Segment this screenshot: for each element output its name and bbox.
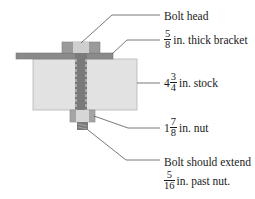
leader-nut (94, 116, 160, 128)
extension-fraction: 5 16 (164, 170, 175, 191)
nut-fraction: 7 8 (170, 117, 177, 138)
bolt-head-face (73, 42, 89, 53)
label-stock: 4 3 4 in. stock (164, 72, 218, 93)
leader-extension (88, 130, 160, 160)
label-extension-line1: Bolt should extend (164, 155, 251, 168)
label-bolt-head: Bolt head (164, 9, 208, 22)
label-bracket: 5 8 in. thick bracket (164, 29, 248, 50)
label-nut: 1 7 8 in. nut (164, 117, 208, 138)
stock-fraction: 3 4 (170, 72, 177, 93)
nut-face (76, 110, 89, 122)
label-bracket-text: in. thick bracket (173, 34, 247, 46)
label-bolt-head-text: Bolt head (164, 10, 208, 22)
label-nut-text: in. nut (179, 122, 208, 134)
leader-bolt-head (81, 15, 160, 43)
leader-bracket (112, 40, 160, 54)
label-stock-text: in. stock (179, 77, 218, 89)
bracket-plate (16, 53, 113, 59)
bolt-shaft (75, 53, 87, 110)
label-extension-line2: 5 16 in. past nut. (164, 170, 230, 191)
bracket-fraction: 5 8 (164, 29, 171, 50)
